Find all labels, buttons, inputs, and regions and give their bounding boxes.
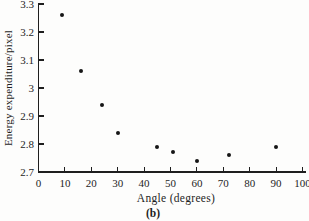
x-tick-label: 40 (139, 178, 150, 189)
y-tick-label: 3.1 (0, 55, 34, 66)
y-tick-label: 3 (0, 83, 34, 94)
y-axis-tick (39, 87, 44, 88)
x-axis-tick (170, 167, 171, 172)
y-tick-label: 3.3 (0, 0, 34, 10)
y-axis-tick (39, 143, 44, 144)
y-tick-label: 3.2 (0, 27, 34, 38)
x-axis-tick (249, 167, 250, 172)
x-axis-tick (223, 167, 224, 172)
scatter-plot-figure: Energy expenditure/pixel Angle (degrees)… (0, 0, 309, 221)
x-tick-label: 90 (271, 178, 282, 189)
y-tick-label: 2.8 (0, 139, 34, 150)
x-axis-tick (196, 167, 197, 172)
x-tick-label: 80 (244, 178, 255, 189)
y-tick-label: 2.9 (0, 111, 34, 122)
data-point (116, 131, 120, 135)
x-axis-line (38, 171, 306, 172)
y-axis-tick (39, 3, 44, 4)
x-axis-tick (91, 167, 92, 172)
y-axis-tick (39, 59, 44, 60)
data-point (171, 150, 175, 154)
x-tick-label: 30 (112, 178, 123, 189)
data-point (100, 103, 104, 107)
data-point (227, 153, 231, 157)
x-tick-label: 70 (218, 178, 229, 189)
x-tick-label: 20 (86, 178, 97, 189)
data-point (274, 145, 278, 149)
x-axis-tick (276, 167, 277, 172)
x-tick-label: 10 (59, 178, 70, 189)
x-axis-tick (117, 167, 118, 172)
y-tick-label: 2.7 (0, 167, 34, 178)
x-tick-label: 50 (165, 178, 176, 189)
y-axis-tick (39, 171, 44, 172)
data-point (155, 145, 159, 149)
data-point (79, 69, 83, 73)
x-tick-label: 60 (191, 178, 202, 189)
y-axis-tick (39, 31, 44, 32)
x-tick-label: 100 (294, 178, 309, 189)
x-axis-tick (302, 167, 303, 172)
x-axis-tick (144, 167, 145, 172)
x-tick-label: 0 (36, 178, 42, 189)
data-point (195, 159, 199, 163)
figure-label: (b) (146, 207, 160, 219)
x-axis-tick (64, 167, 65, 172)
y-axis-tick (39, 115, 44, 116)
data-point (60, 13, 64, 17)
x-axis-title: Angle (degrees) (137, 192, 215, 204)
